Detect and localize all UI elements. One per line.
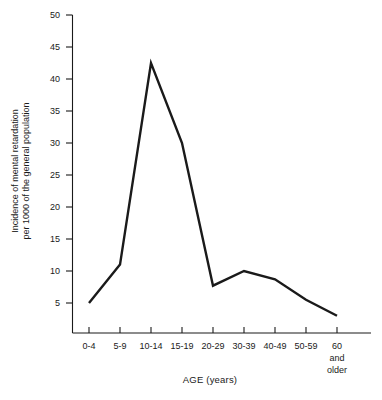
x-tick-label: 60 [315,341,359,351]
y-tick-label: 25 [38,170,60,180]
y-tick-label: 5 [38,298,60,308]
y-tick-label: 30 [38,138,60,148]
y-tick-label: 10 [38,266,60,276]
x-axis-ticks [89,327,337,333]
y-axis-ticks [66,15,73,303]
y-tick-label: 35 [38,106,60,116]
y-tick-label: 40 [38,74,60,84]
y-tick-label: 15 [38,234,60,244]
chart-container: 50 45 40 35 30 25 20 15 10 5 0-4 5-9 10-… [0,0,382,400]
y-tick-label: 20 [38,202,60,212]
y-tick-label: 45 [38,42,60,52]
y-tick-label: 50 [38,10,60,20]
data-series-line [89,63,337,316]
x-tick-label-line2: and [315,353,359,363]
x-tick-label-line3: older [315,365,359,375]
x-axis-title: AGE (years) [150,374,270,385]
y-axis-title-line1: Incidence of mental retardation [10,71,21,271]
line-chart-plot [0,0,382,400]
y-axis-title: Incidence of mental retardation per 1000… [10,71,32,271]
y-axis-title-line2: per 1000 of the general population [21,71,32,271]
